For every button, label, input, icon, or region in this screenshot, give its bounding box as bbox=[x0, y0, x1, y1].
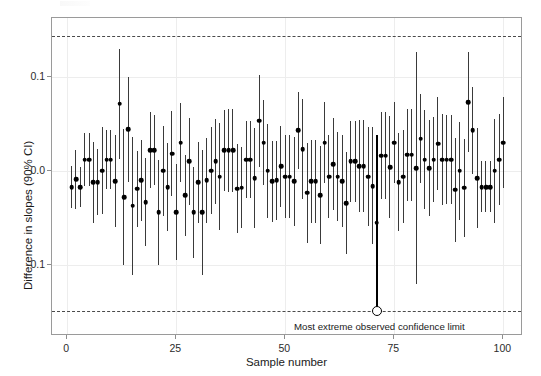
estimate-marker bbox=[327, 174, 332, 179]
estimate-marker bbox=[157, 210, 162, 215]
x-tick-mark-0 bbox=[66, 335, 67, 339]
estimate-marker bbox=[126, 127, 131, 132]
estimate-marker bbox=[122, 195, 127, 200]
x-tick-label-2: 50 bbox=[278, 342, 290, 354]
estimate-marker bbox=[497, 157, 502, 162]
estimate-marker bbox=[252, 176, 257, 181]
x-tick-mark-4 bbox=[502, 335, 503, 339]
plot-area: Most extreme observed confidence limit bbox=[51, 17, 522, 335]
estimate-marker bbox=[74, 177, 79, 182]
estimate-marker bbox=[213, 159, 218, 164]
estimate-marker bbox=[209, 169, 214, 174]
estimate-marker bbox=[248, 157, 253, 162]
y-tick-label-2: -0.1 bbox=[14, 258, 45, 270]
estimate-marker bbox=[218, 174, 223, 179]
x-tick-label-1: 25 bbox=[169, 342, 181, 354]
estimate-marker bbox=[279, 164, 284, 169]
estimate-marker bbox=[152, 148, 157, 153]
x-tick-label-4: 100 bbox=[494, 342, 512, 354]
estimate-marker bbox=[427, 166, 432, 171]
estimate-marker bbox=[314, 179, 319, 184]
estimate-marker bbox=[143, 200, 148, 205]
x-tick-label-0: 0 bbox=[63, 342, 69, 354]
estimate-marker bbox=[388, 165, 393, 170]
y-tick-label-1: 0.0 bbox=[14, 164, 45, 176]
estimate-marker bbox=[117, 102, 122, 107]
estimate-marker bbox=[488, 185, 493, 190]
estimate-marker bbox=[370, 184, 375, 189]
x-tick-mark-2 bbox=[284, 335, 285, 339]
estimate-marker bbox=[257, 119, 262, 124]
estimate-marker bbox=[305, 190, 310, 195]
estimate-marker bbox=[231, 148, 236, 153]
estimate-marker bbox=[335, 174, 340, 179]
estimate-marker bbox=[462, 186, 467, 191]
estimate-marker bbox=[196, 180, 201, 185]
estimate-marker bbox=[436, 141, 441, 146]
estimate-marker bbox=[392, 140, 397, 145]
estimate-marker bbox=[362, 164, 367, 169]
estimate-marker bbox=[130, 203, 135, 208]
estimate-marker bbox=[205, 178, 210, 183]
gridline-h-0 bbox=[52, 77, 521, 78]
estimate-marker bbox=[501, 140, 506, 145]
x-axis-title: Sample number bbox=[51, 356, 522, 368]
estimate-marker bbox=[383, 153, 388, 158]
estimate-marker bbox=[170, 152, 175, 157]
estimate-marker bbox=[453, 187, 458, 192]
estimate-marker bbox=[100, 169, 105, 174]
estimate-marker bbox=[200, 210, 205, 215]
estimate-marker bbox=[466, 100, 471, 105]
estimate-marker bbox=[87, 157, 92, 162]
estimate-marker bbox=[95, 180, 100, 185]
x-tick-mark-1 bbox=[175, 335, 176, 339]
x-tick-label-3: 75 bbox=[388, 342, 400, 354]
estimate-marker bbox=[187, 159, 192, 164]
estimate-marker bbox=[135, 186, 140, 191]
estimate-marker bbox=[165, 185, 170, 190]
y-tick-label-0: 0.1 bbox=[14, 70, 45, 82]
gridline-v-0 bbox=[67, 18, 68, 334]
estimate-marker bbox=[375, 220, 380, 225]
estimate-marker bbox=[183, 193, 188, 198]
estimate-marker bbox=[78, 185, 83, 190]
top-artifact bbox=[60, 1, 90, 6]
estimate-marker bbox=[109, 157, 114, 162]
estimate-marker bbox=[322, 140, 327, 145]
x-tick-mark-3 bbox=[393, 335, 394, 339]
estimate-marker bbox=[287, 174, 292, 179]
estimate-marker bbox=[475, 176, 480, 181]
estimate-marker bbox=[401, 174, 406, 179]
estimate-marker bbox=[340, 179, 345, 184]
estimate-marker bbox=[296, 128, 301, 133]
estimate-marker bbox=[331, 162, 336, 167]
estimate-marker bbox=[409, 153, 414, 158]
gridline-h-2 bbox=[52, 265, 521, 266]
estimate-marker bbox=[300, 147, 305, 152]
extreme-limit-marker bbox=[372, 306, 382, 316]
estimate-marker bbox=[414, 166, 419, 171]
estimate-marker bbox=[492, 169, 497, 174]
estimate-marker bbox=[344, 201, 349, 206]
estimate-marker bbox=[366, 174, 371, 179]
estimate-marker bbox=[418, 136, 423, 141]
estimate-marker bbox=[396, 180, 401, 185]
estimate-marker bbox=[139, 178, 144, 183]
estimate-marker bbox=[261, 140, 266, 145]
estimate-marker bbox=[113, 179, 118, 184]
estimate-marker bbox=[318, 193, 323, 198]
estimate-marker bbox=[274, 178, 279, 183]
reference-line-upper-extreme-limit bbox=[52, 36, 521, 37]
estimate-marker bbox=[69, 185, 74, 190]
estimate-marker bbox=[449, 157, 454, 162]
estimate-marker bbox=[431, 157, 436, 162]
estimate-marker bbox=[457, 169, 462, 174]
estimate-marker bbox=[471, 128, 476, 133]
estimate-marker bbox=[161, 169, 166, 174]
estimate-marker bbox=[174, 210, 179, 215]
estimate-marker bbox=[191, 210, 196, 215]
estimate-marker bbox=[423, 157, 428, 162]
estimate-marker bbox=[292, 179, 297, 184]
estimate-marker bbox=[353, 159, 358, 164]
reference-line-lower-extreme-limit bbox=[52, 311, 521, 312]
